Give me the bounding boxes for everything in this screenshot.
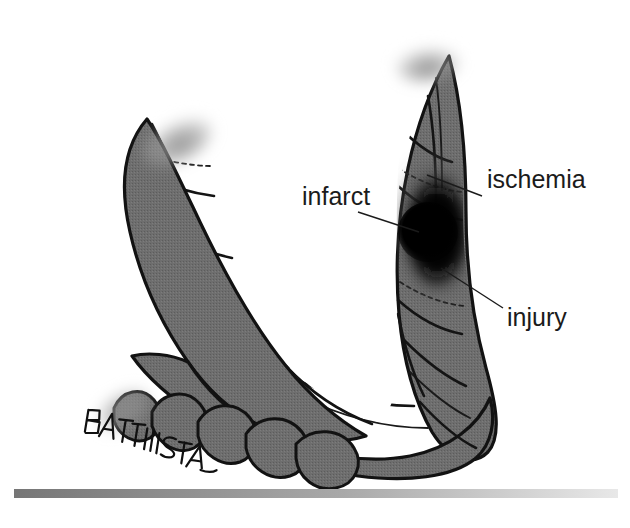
myocardium-illustration: infarct ischemia injury bbox=[0, 0, 630, 528]
label-injury: injury bbox=[507, 303, 567, 331]
footer-gradient-bar bbox=[14, 489, 618, 498]
label-infarct: infarct bbox=[302, 182, 370, 210]
label-ischemia: ischemia bbox=[487, 165, 586, 193]
zone-infarct bbox=[398, 202, 458, 262]
